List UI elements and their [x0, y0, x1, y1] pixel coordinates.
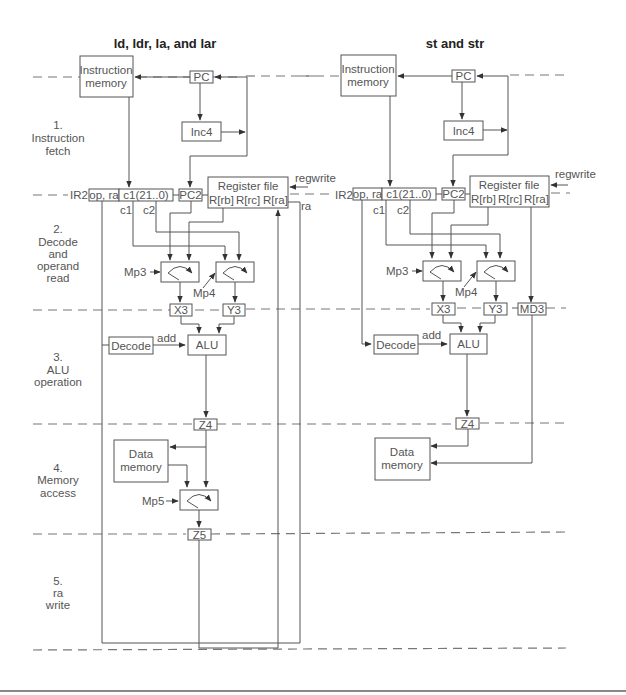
svg-text:Instruction: Instruction [79, 64, 132, 76]
svg-text:write: write [45, 599, 70, 611]
svg-text:PC2: PC2 [442, 188, 464, 200]
svg-text:operand: operand [37, 260, 79, 272]
mux-mp3-right [423, 261, 461, 281]
svg-text:Z4: Z4 [461, 418, 475, 430]
alu-left: ALU [188, 335, 226, 355]
svg-text:c1: c1 [373, 204, 385, 216]
svg-text:Mp4: Mp4 [455, 286, 478, 298]
svg-text:R[rc]: R[rc] [498, 193, 522, 205]
y3-register-left: Y3 [223, 304, 245, 316]
left-datapath: Instruction memory PC Inc4 IR2 op, ra c1… [70, 56, 336, 648]
svg-text:Mp3: Mp3 [124, 266, 146, 278]
inc4-right: Inc4 [444, 121, 483, 140]
mux-mp3-left [161, 262, 199, 282]
mux-mp4-left [216, 262, 254, 282]
svg-text:Z4: Z4 [199, 419, 213, 431]
svg-text:PC: PC [194, 71, 210, 83]
svg-text:ALU: ALU [196, 339, 218, 351]
pc2-register-left: PC2 [179, 189, 202, 201]
svg-text:Z5: Z5 [193, 529, 206, 541]
svg-text:and: and [48, 248, 67, 260]
svg-text:Inc4: Inc4 [191, 126, 213, 138]
svg-text:add: add [157, 332, 176, 344]
svg-text:add: add [422, 329, 441, 341]
svg-text:c2: c2 [397, 204, 409, 216]
stage-separators [33, 75, 570, 650]
svg-text:Y3: Y3 [227, 304, 241, 316]
svg-text:R[ra]: R[ra] [524, 193, 549, 205]
svg-text:Mp5: Mp5 [142, 495, 164, 507]
stage-label-4: 4. Memory access [37, 462, 79, 499]
stage-label-3: 3. ALU operation [34, 351, 82, 388]
svg-text:R[rb]: R[rb] [209, 194, 234, 206]
pc-register-left: PC [190, 71, 213, 83]
svg-text:Data: Data [129, 448, 154, 460]
svg-text:PC2: PC2 [179, 189, 201, 201]
svg-text:3.: 3. [53, 351, 63, 363]
svg-text:PC: PC [456, 70, 472, 82]
svg-text:read: read [46, 272, 69, 284]
stage-label-1: 1. Instruction fetch [31, 119, 84, 157]
svg-text:op, ra: op, ra [353, 188, 383, 200]
svg-text:memory: memory [347, 76, 389, 88]
svg-text:Decode: Decode [111, 340, 151, 352]
svg-text:X3: X3 [174, 304, 188, 316]
bottom-rule [0, 690, 626, 692]
svg-text:4.: 4. [53, 462, 63, 474]
svg-text:MD3: MD3 [520, 303, 544, 315]
svg-text:operation: operation [34, 376, 82, 388]
y3-register-right: Y3 [484, 303, 507, 315]
md3-register-right: MD3 [518, 303, 546, 315]
x3-register-left: X3 [170, 304, 192, 316]
z4-register-left: Z4 [194, 419, 217, 431]
register-file-right: Register file R[rb] R[rc] R[ra] [470, 176, 549, 207]
svg-text:X3: X3 [436, 303, 450, 315]
svg-text:Instruction: Instruction [31, 132, 84, 144]
pc-register-right: PC [452, 70, 475, 82]
svg-text:Instruction: Instruction [341, 63, 394, 75]
ir2-label-left: IR2 [70, 189, 88, 201]
svg-text:Register file: Register file [479, 179, 540, 191]
z5-register-left: Z5 [188, 529, 211, 541]
instruction-memory-left: Instruction memory [79, 56, 133, 97]
svg-text:1.: 1. [53, 119, 63, 131]
data-memory-right: Data memory [375, 438, 430, 480]
svg-text:ALU: ALU [457, 338, 479, 350]
svg-text:IR2: IR2 [335, 189, 353, 201]
svg-text:R[ra]: R[ra] [263, 194, 288, 206]
x3-register-right: X3 [432, 303, 455, 315]
svg-text:c1(21..0): c1(21..0) [123, 189, 169, 201]
pc2-register-right: PC2 [442, 188, 465, 200]
ra-label-left: ra [301, 200, 312, 212]
svg-text:op, ra: op, ra [89, 189, 119, 201]
svg-text:ALU: ALU [47, 364, 69, 376]
pipeline-datapath-diagram: ld, ldr, la, and lar st and str 1. Instr… [0, 0, 626, 695]
svg-text:2.: 2. [53, 223, 63, 235]
svg-text:Memory: Memory [37, 474, 79, 486]
svg-text:c1(21..0): c1(21..0) [386, 188, 432, 200]
data-memory-left: Data memory [114, 440, 168, 482]
svg-text:Y3: Y3 [488, 303, 502, 315]
svg-text:memory: memory [85, 77, 127, 89]
decode-unit-left: Decode [109, 337, 153, 354]
right-diagram-title: st and str [426, 36, 485, 51]
right-datapath: Instruction memory PC Inc4 IR2 op, ra c1… [335, 55, 596, 480]
svg-text:regwrite: regwrite [555, 168, 596, 180]
inc4-left: Inc4 [182, 122, 221, 141]
svg-text:Register file: Register file [218, 180, 279, 192]
svg-text:c1: c1 [120, 204, 132, 216]
svg-text:Mp3: Mp3 [386, 265, 408, 277]
ir2-register-right: op, ra c1(21..0) [353, 188, 436, 200]
svg-text:fetch: fetch [46, 145, 71, 157]
regwrite-label-left: regwrite [295, 172, 336, 184]
svg-text:access: access [40, 487, 76, 499]
svg-text:memory: memory [120, 461, 162, 473]
alu-right: ALU [450, 334, 487, 354]
svg-text:Decode: Decode [38, 236, 78, 248]
svg-text:5.: 5. [53, 575, 63, 587]
svg-text:memory: memory [381, 459, 423, 471]
stage-label-5: 5. ra write [45, 575, 70, 611]
svg-text:Inc4: Inc4 [453, 125, 475, 137]
svg-text:c2: c2 [143, 204, 155, 216]
svg-text:R[rb]: R[rb] [471, 193, 496, 205]
